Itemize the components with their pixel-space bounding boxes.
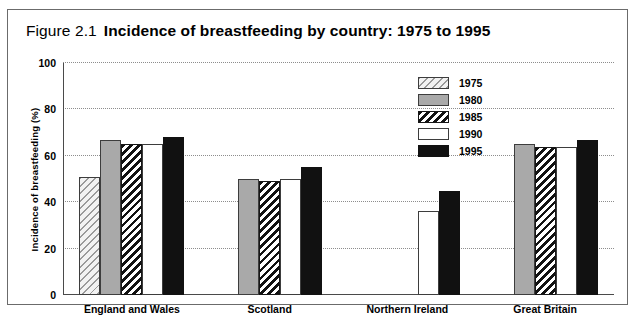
x-axis-category-label: England and Wales (63, 303, 201, 315)
figure-title-bar: Figure 2.1Incidence of breastfeeding by … (26, 22, 491, 40)
legend-item-1975[interactable]: 1975 (418, 76, 482, 90)
bar-1975[interactable] (79, 177, 100, 295)
legend-label: 1980 (459, 95, 482, 106)
page-title: Incidence of breastfeeding by country: 1… (104, 22, 491, 39)
bar-1990[interactable] (418, 211, 439, 295)
y-axis-tick-label: 40 (44, 196, 56, 208)
bar-group: Great Britain (476, 63, 614, 295)
legend-label: 1990 (459, 129, 482, 140)
plot-inner: 020406080100 England and WalesScotlandNo… (63, 63, 614, 295)
bar-group-bars (63, 63, 201, 295)
legend-swatch-1975 (418, 77, 449, 89)
y-axis-tick-label: 80 (44, 103, 56, 115)
x-axis-category-label: Scotland (201, 303, 339, 315)
y-axis-tick-label: 0 (50, 289, 56, 301)
bar-1980[interactable] (238, 179, 259, 295)
figure-frame: Figure 2.1Incidence of breastfeeding by … (7, 9, 628, 305)
bar-1995[interactable] (577, 140, 598, 295)
legend-swatch-1980 (418, 94, 449, 106)
bar-1980[interactable] (514, 144, 535, 295)
legend-label: 1985 (459, 112, 482, 123)
chart-legend: 19751980198519901995 (418, 76, 482, 161)
bar-1995[interactable] (163, 137, 184, 295)
y-axis-tick-label: 100 (38, 57, 56, 69)
x-axis-category-label: Northern Ireland (339, 303, 477, 315)
legend-swatch-1985 (418, 111, 449, 123)
bar-groups: England and WalesScotlandNorthern Irelan… (63, 63, 614, 295)
y-axis-tick-label: 60 (44, 150, 56, 162)
bar-1995[interactable] (301, 167, 322, 295)
legend-swatch-1995 (418, 145, 449, 157)
plot-area: 020406080100 England and WalesScotlandNo… (63, 63, 614, 295)
bar-1990[interactable] (556, 147, 577, 295)
bar-group: England and Wales (63, 63, 201, 295)
legend-item-1995[interactable]: 1995 (418, 144, 482, 158)
legend-label: 1975 (459, 78, 482, 89)
bar-1980[interactable] (100, 140, 121, 295)
bar-group-bars (201, 63, 339, 295)
figure-number: Figure 2.1 (26, 22, 97, 39)
legend-item-1980[interactable]: 1980 (418, 93, 482, 107)
bar-group: Scotland (201, 63, 339, 295)
bar-1985[interactable] (121, 144, 142, 295)
bar-1995[interactable] (439, 191, 460, 295)
legend-swatch-1990 (418, 128, 449, 140)
bar-group-bars (476, 63, 614, 295)
y-axis-title: Incidence of breastfeeding (%) (28, 63, 42, 295)
y-axis-title-label: Incidence of breastfeeding (%) (30, 107, 41, 251)
legend-item-1985[interactable]: 1985 (418, 110, 482, 124)
legend-label: 1995 (459, 146, 482, 157)
bar-1985[interactable] (535, 147, 556, 295)
y-axis-tick-label: 20 (44, 243, 56, 255)
legend-item-1990[interactable]: 1990 (418, 127, 482, 141)
bar-1990[interactable] (280, 179, 301, 295)
bar-1985[interactable] (259, 181, 280, 295)
x-axis-category-label: Great Britain (476, 303, 614, 315)
bar-1990[interactable] (142, 144, 163, 295)
